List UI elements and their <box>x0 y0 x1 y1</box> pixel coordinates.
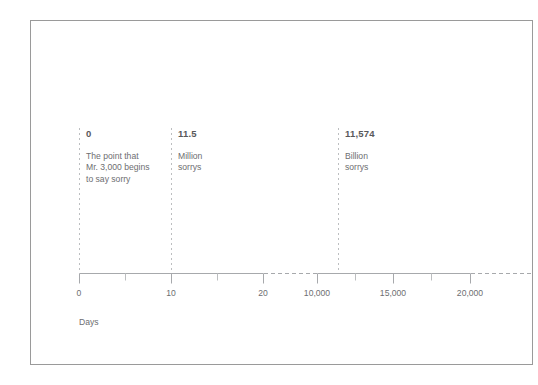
axis-major-ticks <box>80 274 471 284</box>
annotation-headline: 0 <box>86 128 171 140</box>
annotation-body: The point that Mr. 3,000 begins to say s… <box>86 151 171 185</box>
chart-canvas <box>0 0 538 385</box>
annotation-headline: 11,574 <box>345 128 428 140</box>
axis-tick-label-10: 10 <box>166 288 176 298</box>
axis-tick-label-15000: 15,000 <box>380 288 406 298</box>
x-axis-title: Days <box>79 317 99 327</box>
chart-figure: 0 The point that Mr. 3,000 begins to say… <box>0 0 538 385</box>
axis-tick-label-20: 20 <box>258 288 268 298</box>
axis-tick-label-10000: 10,000 <box>304 288 330 298</box>
axis-tick-label-0: 0 <box>77 288 82 298</box>
annotation-callout-11-5: 11.5 Million sorrys <box>171 128 231 174</box>
annotation-body: Billion sorrys <box>345 151 428 174</box>
axis-tick-label-20000: 20,000 <box>457 288 483 298</box>
annotation-headline: 11.5 <box>178 128 231 140</box>
annotation-callout-0: 0 The point that Mr. 3,000 begins to say… <box>79 128 171 185</box>
annotation-callout-11574: 11,574 Billion sorrys <box>338 128 428 174</box>
annotation-body: Million sorrys <box>178 151 231 174</box>
